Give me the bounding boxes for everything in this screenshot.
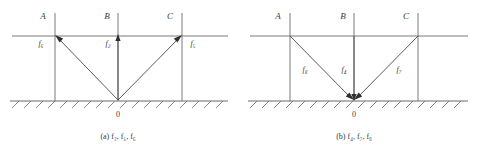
figure-svg: A B C f₆ f₂ f₅ 0 (a) f₂, f₅, f₆ [0, 0, 480, 147]
origin-label-a: 0 [116, 110, 120, 119]
ground-hatching-b [250, 101, 461, 108]
force-vector-f2 [115, 34, 120, 100]
panel-a: A B C f₆ f₂ f₅ 0 (a) f₂, f₅, f₆ [10, 11, 228, 141]
force-label-f8: f₈ [302, 65, 307, 74]
axis-label-b-A: A [274, 11, 281, 21]
axis-label-a-A: A [39, 11, 46, 21]
ground-hatching-a [12, 101, 223, 108]
panel-caption-a: (a) f₂, f₅, f₆ [100, 132, 135, 141]
axis-label-a-B: B [104, 11, 110, 21]
axis-label-b-C: C [403, 11, 410, 21]
origin-label-b: 0 [352, 110, 356, 119]
force-label-f7: f₇ [396, 65, 401, 74]
panel-b: A B C f₈ f₄ f₇ 0 (b) f₄, f₇, f₈ [248, 11, 468, 141]
axis-label-b-B: B [340, 11, 346, 21]
force-diagram-figure: A B C f₆ f₂ f₅ 0 (a) f₂, f₅, f₆ [0, 0, 480, 147]
panel-caption-b: (b) f₄, f₇, f₈ [336, 132, 372, 141]
force-vector-f7 [354, 36, 418, 100]
force-label-f6: f₆ [38, 39, 43, 48]
force-label-f4: f₄ [341, 65, 346, 74]
force-vector-f4 [351, 36, 356, 101]
force-vector-f5 [118, 35, 182, 100]
force-label-f2: f₂ [105, 39, 110, 48]
axis-label-a-C: C [167, 11, 174, 21]
force-label-f5: f₅ [190, 39, 195, 48]
